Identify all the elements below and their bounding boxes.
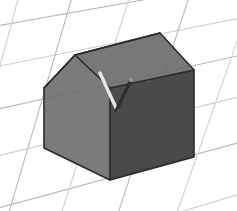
rod-tip-highlight [129,78,133,82]
house-scene-svg [0,0,237,211]
scene-canvas [0,0,237,211]
